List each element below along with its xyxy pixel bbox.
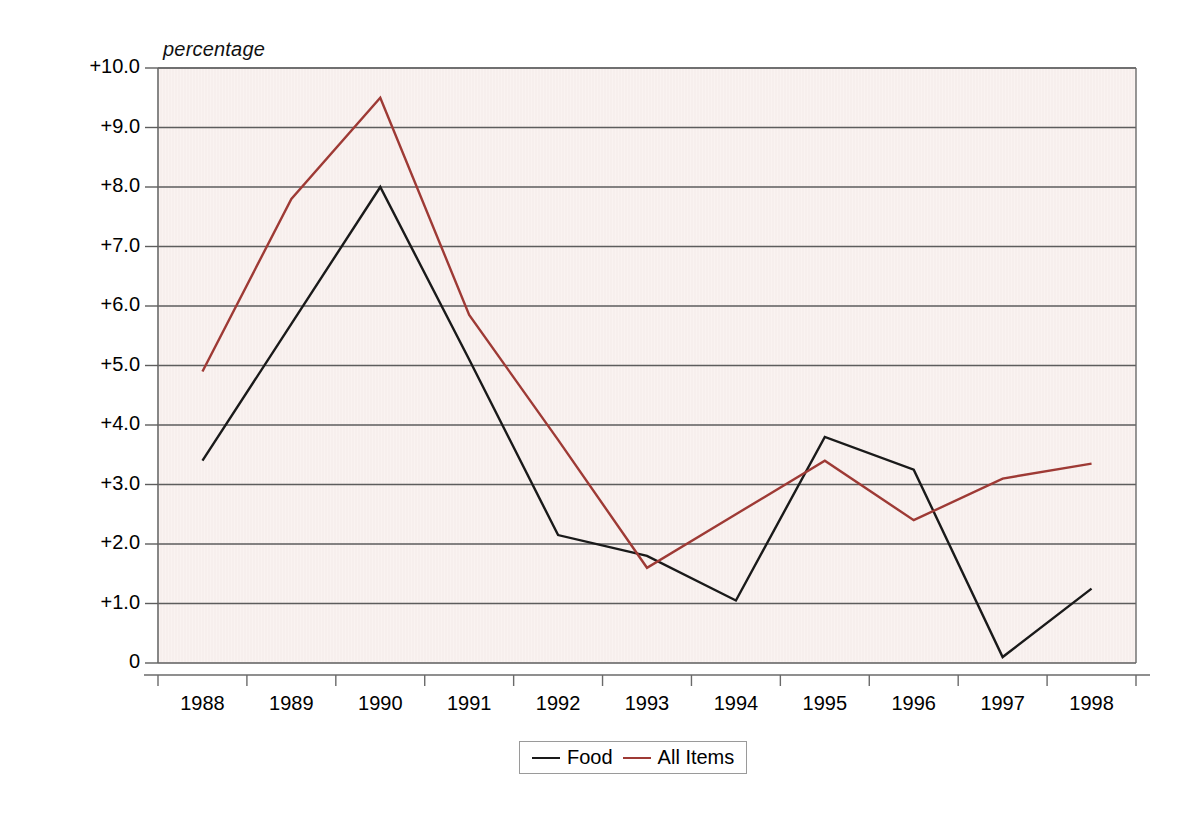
x-tick-label: 1994 — [691, 692, 780, 715]
x-tick-label: 1993 — [603, 692, 692, 715]
x-axis-ticks — [158, 675, 1136, 686]
x-tick-label: 1992 — [514, 692, 603, 715]
legend-label: All Items — [658, 746, 735, 769]
x-tick-label: 1991 — [425, 692, 514, 715]
y-tick-label: +4.0 — [30, 412, 140, 435]
y-tick-label: +9.0 — [30, 115, 140, 138]
y-axis-title: percentage — [163, 38, 265, 61]
y-tick-label: +1.0 — [30, 591, 140, 614]
y-axis-ticks — [145, 68, 158, 663]
y-tick-label: +3.0 — [30, 472, 140, 495]
y-tick-label: +2.0 — [30, 531, 140, 554]
x-tick-label: 1996 — [869, 692, 958, 715]
y-tick-label: +8.0 — [30, 174, 140, 197]
y-tick-label: +5.0 — [30, 353, 140, 376]
line-chart: percentage +10.0+9.0+8.0+7.0+6.0+5.0+4.0… — [0, 0, 1195, 823]
x-tick-label: 1988 — [158, 692, 247, 715]
y-tick-label: +6.0 — [30, 293, 140, 316]
legend-label: Food — [567, 746, 613, 769]
legend-line-swatch — [532, 757, 560, 759]
x-tick-label: 1989 — [247, 692, 336, 715]
y-tick-label: +7.0 — [30, 234, 140, 257]
legend-line-swatch — [623, 757, 651, 759]
x-tick-label: 1997 — [958, 692, 1047, 715]
y-tick-label: +10.0 — [30, 55, 140, 78]
x-tick-label: 1995 — [780, 692, 869, 715]
y-tick-label: 0 — [30, 650, 140, 673]
legend-item-food[interactable]: Food — [532, 746, 613, 769]
legend-item-all-items[interactable]: All Items — [623, 746, 735, 769]
x-tick-label: 1998 — [1047, 692, 1136, 715]
x-tick-label: 1990 — [336, 692, 425, 715]
chart-legend: FoodAll Items — [519, 741, 747, 774]
